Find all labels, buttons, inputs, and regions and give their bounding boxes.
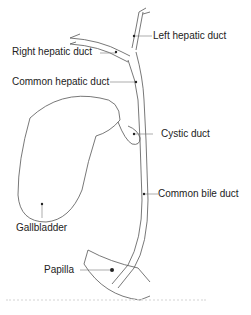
label-papilla: Papilla [44,264,74,276]
left-hepatic-duct-shape [132,8,150,50]
duodenum-shape [84,250,150,300]
label-common-hepatic-duct: Common hepatic duct [12,76,109,88]
label-gallbladder: Gallbladder [16,222,67,234]
label-left-hepatic-duct: Left hepatic duct [153,30,226,42]
cystic-duct-shape [118,122,140,144]
label-common-bile-duct: Common bile duct [158,188,239,200]
label-right-hepatic-duct: Right hepatic duct [12,46,92,58]
gallbladder-shape [18,96,120,222]
common-duct-shape [112,52,148,288]
faint-caption [6,299,206,307]
label-cystic-duct: Cystic duct [161,128,210,140]
